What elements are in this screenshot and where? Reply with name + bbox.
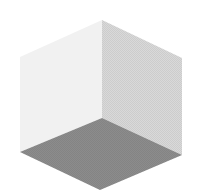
- room-corner-diagram: [0, 0, 202, 191]
- diagram-canvas: [0, 0, 202, 191]
